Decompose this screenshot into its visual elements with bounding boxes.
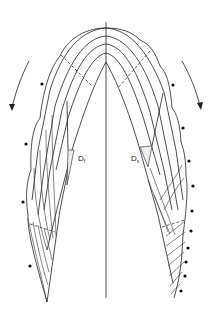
- arrow-right-icon: [182, 61, 203, 110]
- layered-growth-diagram: Df Ds: [0, 0, 213, 315]
- left-limb-layers: [28, 115, 72, 302]
- wedge-d-f: [67, 101, 74, 185]
- wedge-d-s: [140, 93, 163, 167]
- arch-layers: [27, 28, 187, 302]
- dots-right: [171, 83, 194, 292]
- label-d-s: Ds: [131, 154, 140, 164]
- dashed-boundaries: [30, 51, 185, 232]
- arrow-left-icon: [9, 61, 29, 111]
- label-d-f: Df: [78, 154, 86, 164]
